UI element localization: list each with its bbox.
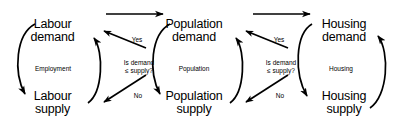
node-labour-supply-line2: supply [10,103,95,116]
node-labour-supply-line1: Labour [10,90,95,103]
node-population-demand-line2: demand [144,31,244,44]
loop-label-housing: Housing [302,65,380,73]
node-labour-demand: Labour demand [10,18,95,43]
node-population-demand-line1: Population [144,18,244,31]
node-housing-supply: Housing supply [300,90,388,115]
decision-question-population: Is demand ≤ supply? [254,59,308,75]
node-housing-supply-line2: supply [300,103,388,116]
node-population-supply-line1: Population [144,90,244,103]
node-labour-demand-line2: demand [10,31,95,44]
loop-label-employment: Employment [12,65,94,73]
decision-question-labour: Is demand ≤ supply? [112,59,166,75]
node-housing-supply-line1: Housing [300,90,388,103]
node-population-supply: Population supply [144,90,244,115]
decision-no-label-population: No [270,92,290,100]
node-labour-supply: Labour supply [10,90,95,115]
decision-yes-label-population: Yes [268,36,290,44]
node-labour-demand-line1: Labour [10,18,95,31]
decision-question-labour-line2: ≤ supply? [112,67,166,75]
node-population-supply-line2: supply [144,103,244,116]
causal-loop-diagram: Labour demand Labour supply Population d… [0,0,415,124]
decision-no-label-labour: No [128,92,148,100]
decision-question-labour-line1: Is demand [112,59,166,67]
node-population-demand: Population demand [144,18,244,43]
node-housing-demand: Housing demand [300,18,388,43]
node-housing-demand-line1: Housing [300,18,388,31]
decision-question-population-line1: Is demand [254,59,308,67]
decision-yes-label-labour: Yes [126,36,148,44]
node-housing-demand-line2: demand [300,31,388,44]
decision-question-population-line2: ≤ supply? [254,67,308,75]
